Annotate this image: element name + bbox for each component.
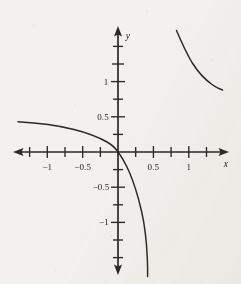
curve-branch-upper-left: [18, 122, 118, 152]
y-axis-label: y: [126, 32, 130, 42]
x-axis-label: x: [224, 160, 228, 170]
y-tick-label-0-5: 0.5: [97, 112, 109, 121]
graph-figure: −1 −0.5 0.5 1 1 0.5 −0.5 −1 x y: [0, 0, 241, 284]
curve-branch-upper-right: [177, 31, 223, 91]
x-tick-label-1: 1: [186, 163, 191, 172]
y-tick-label-neg-1: −1: [99, 218, 109, 227]
x-tick-label-neg-0-5: −0.5: [74, 163, 91, 172]
x-tick-label-neg-1: −1: [42, 163, 52, 172]
y-tick-label-1: 1: [104, 77, 109, 86]
y-tick-label-neg-0-5: −0.5: [93, 183, 110, 192]
coordinate-plot: [0, 0, 241, 284]
x-tick-label-0-5: 0.5: [148, 163, 160, 172]
